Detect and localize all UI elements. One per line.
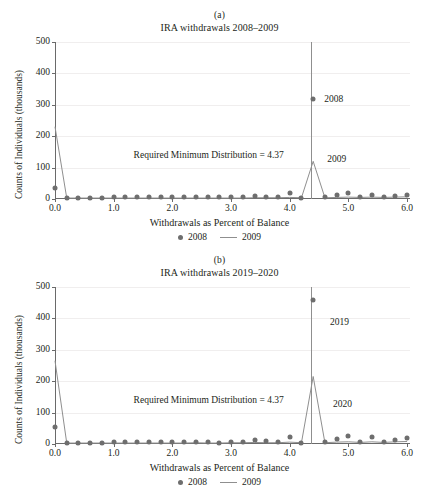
data-point xyxy=(346,434,351,439)
legend-dot-icon xyxy=(178,480,183,485)
rmd-annotation: Required Minimum Distribution = 4.37 xyxy=(134,150,284,160)
x-tick-label: 3.0 xyxy=(225,204,237,214)
x-tick xyxy=(348,199,349,202)
data-point xyxy=(334,192,339,197)
x-axis-title-b: Withdrawals as Percent of Balance xyxy=(0,462,439,473)
data-point xyxy=(99,195,104,200)
x-axis-title-a: Withdrawals as Percent of Balance xyxy=(0,217,439,228)
data-point xyxy=(53,424,58,429)
data-point xyxy=(275,195,280,200)
ira-withdrawals-figure: (a) IRA withdrawals 2008–2009 0100200300… xyxy=(0,0,439,490)
legend-b: 20082009 xyxy=(0,477,439,487)
x-tick-label: 5.0 xyxy=(342,449,354,459)
data-point xyxy=(53,186,58,191)
data-point xyxy=(135,440,140,445)
legend-item-2009: 2009 xyxy=(220,477,261,487)
x-tick-label: 0.0 xyxy=(49,204,61,214)
data-point xyxy=(405,193,410,198)
legend-a: 20082009 xyxy=(0,232,439,242)
y-tick-label: 500 xyxy=(36,37,50,47)
x-tick xyxy=(290,444,291,447)
data-point xyxy=(358,195,363,200)
legend-item-2008: 2008 xyxy=(178,477,207,487)
data-point xyxy=(346,191,351,196)
data-point xyxy=(264,439,269,444)
data-point xyxy=(322,195,327,200)
data-point xyxy=(311,96,316,101)
data-point xyxy=(275,440,280,445)
legend-line-icon xyxy=(220,237,237,238)
y-tick-label: 300 xyxy=(36,100,50,110)
data-point xyxy=(405,435,410,440)
data-point xyxy=(287,191,292,196)
legend-dot-icon xyxy=(178,235,183,240)
data-point xyxy=(381,439,386,444)
data-point xyxy=(358,440,363,445)
rmd-reference-line xyxy=(311,287,312,444)
line-series-2009 xyxy=(55,42,410,199)
data-point xyxy=(123,195,128,200)
y-tick-label: 200 xyxy=(36,131,50,141)
legend-label: 2009 xyxy=(242,477,261,487)
x-tick xyxy=(55,444,56,447)
x-tick xyxy=(407,199,408,202)
series-annotation-2019: 2019 xyxy=(330,317,349,327)
data-point xyxy=(322,440,327,445)
x-tick-label: 4.0 xyxy=(284,204,296,214)
legend-label: 2008 xyxy=(188,232,207,242)
panel-letter-a: (a) xyxy=(0,10,439,20)
data-point xyxy=(252,193,257,198)
y-axis-title-b: Counts of Individuals (thousands) xyxy=(14,315,24,444)
data-point xyxy=(217,440,222,445)
x-tick xyxy=(348,444,349,447)
data-point xyxy=(311,297,316,302)
data-point xyxy=(99,440,104,445)
data-point xyxy=(182,440,187,445)
x-tick-label: 4.0 xyxy=(284,449,296,459)
data-point xyxy=(170,195,175,200)
data-point xyxy=(264,194,269,199)
x-tick-label: 1.0 xyxy=(108,204,120,214)
x-tick-label: 5.0 xyxy=(342,204,354,214)
data-point xyxy=(64,195,69,200)
series-annotation-2008: 2008 xyxy=(324,94,343,104)
data-point xyxy=(135,195,140,200)
data-point xyxy=(88,195,93,200)
y-tick-label: 400 xyxy=(36,69,50,79)
data-point xyxy=(393,193,398,198)
plot-area-a: 01002003004005000.01.02.03.04.05.06.0Req… xyxy=(55,42,410,199)
data-point xyxy=(287,435,292,440)
legend-label: 2008 xyxy=(188,477,207,487)
data-point xyxy=(205,195,210,200)
data-point xyxy=(111,195,116,200)
panel-title-b: IRA withdrawals 2019–2020 xyxy=(0,267,439,278)
data-point xyxy=(76,440,81,445)
panel-letter-b: (b) xyxy=(0,255,439,265)
x-tick xyxy=(55,199,56,202)
data-point xyxy=(393,438,398,443)
x-tick-label: 1.0 xyxy=(108,449,120,459)
data-point xyxy=(193,439,198,444)
data-point xyxy=(369,435,374,440)
rmd-reference-line xyxy=(311,42,312,199)
data-point xyxy=(205,440,210,445)
data-point xyxy=(217,195,222,200)
rmd-annotation: Required Minimum Distribution = 4.37 xyxy=(134,395,284,405)
line-series-2020 xyxy=(55,287,410,444)
x-tick-label: 0.0 xyxy=(49,449,61,459)
series-annotation-2009: 2009 xyxy=(327,154,346,164)
y-tick-label: 100 xyxy=(36,163,50,173)
data-point xyxy=(64,440,69,445)
x-tick-label: 6.0 xyxy=(401,204,413,214)
data-point xyxy=(146,440,151,445)
y-tick-label: 400 xyxy=(36,314,50,324)
legend-item-2009: 2009 xyxy=(220,232,261,242)
data-point xyxy=(182,195,187,200)
data-point xyxy=(334,436,339,441)
data-point xyxy=(123,440,128,445)
data-point xyxy=(229,440,234,445)
data-point xyxy=(252,438,257,443)
plot-area-b: 01002003004005000.01.02.03.04.05.06.0Req… xyxy=(55,287,410,444)
data-point xyxy=(158,440,163,445)
series-annotation-2020: 2020 xyxy=(333,399,352,409)
